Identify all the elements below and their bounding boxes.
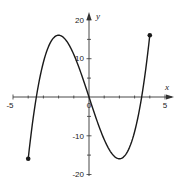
x-axis-label: x	[164, 82, 169, 92]
x-axis-arrow-icon	[166, 95, 174, 100]
right-endpoint-dot	[148, 33, 153, 38]
y-axis-label: y	[95, 11, 100, 21]
x-tick-label-neg5: -5	[6, 101, 14, 110]
y-tick-label-neg10: -10	[72, 132, 84, 141]
y-axis: 20 10 -10 -20 y	[72, 11, 100, 179]
function-graph: -5 0 5 x 20 10 -10 -20 y	[0, 0, 193, 187]
y-axis-arrow-icon	[87, 12, 92, 20]
x-axis: -5 0 5 x	[6, 82, 174, 110]
left-endpoint-dot	[26, 157, 31, 162]
x-tick-label-pos5: 5	[163, 101, 168, 110]
y-tick-label-20: 20	[75, 16, 84, 25]
y-tick-label-neg20: -20	[72, 170, 84, 179]
